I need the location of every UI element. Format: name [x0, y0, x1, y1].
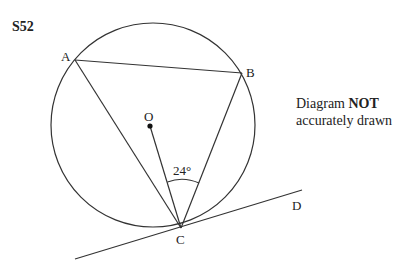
chord-ac: [75, 60, 181, 228]
note-bold: NOT: [348, 96, 378, 111]
tangent-line-cd: [75, 190, 302, 259]
not-accurate-note: Diagram NOT accurately drawn: [296, 95, 392, 129]
centre-point: [147, 123, 152, 128]
point-label-b: B: [246, 66, 255, 79]
point-label-d: D: [292, 199, 301, 212]
chord-bc: [181, 73, 242, 228]
point-label-c: C: [176, 233, 185, 246]
note-prefix: Diagram: [296, 96, 348, 111]
circle: [51, 23, 255, 227]
note-line2: accurately drawn: [296, 113, 392, 128]
angle-label: 24°: [173, 164, 191, 177]
chord-ab: [75, 60, 242, 73]
angle-arc-ocb: [168, 179, 200, 183]
point-label-o: O: [144, 110, 153, 123]
circle-theorem-diagram: [0, 0, 407, 260]
point-label-a: A: [61, 50, 70, 63]
